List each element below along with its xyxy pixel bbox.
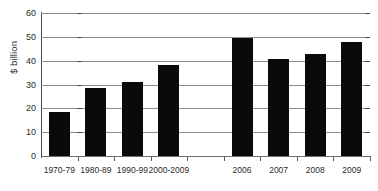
y-tick-mark-right-20 — [365, 108, 370, 109]
y-tick-mark-60 — [77, 13, 82, 14]
x-tick-mark-2 — [151, 157, 152, 161]
y-tick-mark-10 — [77, 132, 82, 133]
gridline-50 — [41, 37, 370, 38]
y-tick-label-30: 30 — [0, 80, 36, 90]
y-tick-mark-right-40 — [365, 61, 370, 62]
x-tick-mark-3 — [187, 157, 188, 161]
y-tick-mark-right-30 — [365, 85, 370, 86]
bar-chart: $ billion 0102030405060 1970-791980-8919… — [0, 0, 378, 191]
y-tick-label-10: 10 — [0, 127, 36, 137]
x-tick-mark-5 — [260, 157, 261, 161]
x-tick-label-2009: 2009 — [342, 165, 361, 175]
y-tick-mark-50 — [77, 37, 82, 38]
y-tick-label-60: 60 — [0, 8, 36, 18]
y-tick-label-20: 20 — [0, 103, 36, 113]
x-tick-label-2008: 2008 — [306, 165, 325, 175]
x-axis-line — [41, 156, 371, 157]
y-tick-mark-30 — [77, 85, 82, 86]
x-tick-label-1990-99: 1990-99 — [117, 165, 148, 175]
bar-2007 — [268, 59, 289, 156]
y-tick-mark-right-60 — [365, 13, 370, 14]
bar-1990-99 — [122, 82, 143, 156]
y-tick-mark-right-50 — [365, 37, 370, 38]
bar-2009 — [341, 42, 362, 156]
bar-2008 — [305, 54, 326, 156]
x-tick-label-1980-89: 1980-89 — [80, 165, 111, 175]
x-tick-mark-0 — [78, 157, 79, 161]
y-tick-mark-right-10 — [365, 132, 370, 133]
y-tick-label-0: 0 — [0, 151, 36, 161]
y-tick-label-50: 50 — [0, 32, 36, 42]
bar-2006 — [232, 38, 253, 156]
x-tick-mark-4 — [224, 157, 225, 161]
x-tick-label-1970-79: 1970-79 — [44, 165, 75, 175]
y-tick-mark-20 — [77, 108, 82, 109]
plot-area — [41, 13, 370, 156]
bar-2000-2009 — [158, 65, 179, 156]
y-tick-mark-40 — [77, 61, 82, 62]
x-tick-mark-8 — [370, 157, 371, 161]
gridline-60 — [41, 13, 370, 14]
x-tick-mark-7 — [333, 157, 334, 161]
x-tick-mark-1 — [114, 157, 115, 161]
x-tick-label-2000-2009: 2000-2009 — [149, 165, 190, 175]
y-tick-label-40: 40 — [0, 56, 36, 66]
bar-1970-79 — [49, 112, 70, 156]
x-tick-mark-6 — [297, 157, 298, 161]
bar-1980-89 — [85, 88, 106, 156]
x-tick-label-2006: 2006 — [233, 165, 252, 175]
x-tick-label-2007: 2007 — [269, 165, 288, 175]
